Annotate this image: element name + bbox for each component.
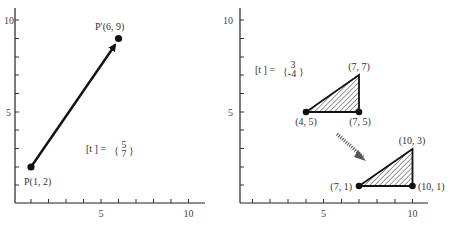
label-p: P(1, 2) <box>24 176 51 188</box>
dotted-translation-arrow <box>337 134 366 161</box>
point-p <box>27 163 34 170</box>
x-tick-label-10: 10 <box>184 208 194 219</box>
label-vertex-7-1: (7, 1) <box>330 181 352 193</box>
vertex-7-5 <box>356 109 363 116</box>
y-tick-label-5: 5 <box>6 107 11 118</box>
label-vertex-4-5: (4, 5) <box>295 116 317 128</box>
matrix-ty: -4 <box>288 68 296 79</box>
label-vertex-10-3: (10, 3) <box>399 135 426 147</box>
translation-matrix-left: [t ] = { 5 7 } <box>86 139 134 159</box>
left-axes: 5 10 5 10 <box>4 8 205 219</box>
right-axes: 5 10 5 10 <box>223 8 428 219</box>
label-p-prime: P′(6, 9) <box>95 21 124 33</box>
y-tick-label-10: 10 <box>4 15 14 26</box>
label-vertex-10-1: (10, 1) <box>418 181 445 193</box>
translation-diagram: 5 10 5 10 P(1, 2) P′(6, 9) [t ] = { 5 7 … <box>0 0 453 225</box>
triangle-translated: (7, 1) (10, 1) (10, 3) <box>330 135 444 193</box>
matrix-prefix: [t ] = <box>86 143 106 154</box>
matrix-prefix: [t ] = <box>255 64 275 75</box>
translation-matrix-right: [t ] = { 3 -4 } <box>255 59 304 79</box>
label-vertex-7-7: (7, 7) <box>348 61 370 73</box>
point-p-prime <box>115 35 122 42</box>
matrix-ty: 7 <box>122 148 127 159</box>
right-brace: } <box>129 145 134 156</box>
y-tick-label-10: 10 <box>223 15 233 26</box>
y-tick-label-5: 5 <box>228 107 233 118</box>
y-ticks <box>240 20 244 185</box>
triangle-original: (4, 5) (7, 5) (7, 7) <box>295 61 371 128</box>
vertex-4-5 <box>303 109 310 116</box>
right-panel: 5 10 5 10 (4, 5) (7, 5) (7, 7) (7, 1) (1… <box>223 8 445 219</box>
y-ticks <box>15 20 19 185</box>
x-tick-label-5: 5 <box>99 208 104 219</box>
vertex-7-1 <box>356 183 363 190</box>
right-brace: } <box>299 66 304 77</box>
x-tick-label-10: 10 <box>408 208 418 219</box>
vertex-10-1 <box>409 183 416 190</box>
x-tick-label-5: 5 <box>321 208 326 219</box>
left-panel: 5 10 5 10 P(1, 2) P′(6, 9) [t ] = { 5 7 … <box>4 8 205 219</box>
left-brace: { <box>114 145 119 156</box>
label-vertex-7-5: (7, 5) <box>349 116 371 128</box>
